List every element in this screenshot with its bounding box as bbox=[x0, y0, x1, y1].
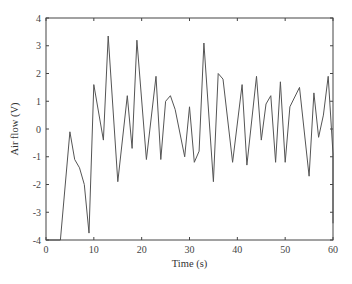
y-axis-label: Air flow (V) bbox=[9, 102, 21, 156]
x-tick-label: 40 bbox=[232, 244, 242, 255]
line-chart: 0102030405060-4-3-2-101234 Time (s) Air … bbox=[0, 0, 352, 284]
y-tick-label: -4 bbox=[33, 235, 41, 246]
y-tick-label: 4 bbox=[36, 13, 41, 24]
axis-ticks bbox=[46, 18, 333, 240]
x-tick-label: 60 bbox=[328, 244, 338, 255]
x-tick-label: 30 bbox=[185, 244, 195, 255]
figure-caption bbox=[0, 270, 352, 284]
y-tick-label: 0 bbox=[36, 124, 41, 135]
tick-labels: 0102030405060-4-3-2-101234 bbox=[33, 13, 338, 256]
x-tick-label: 20 bbox=[137, 244, 147, 255]
plot-frame bbox=[46, 18, 333, 240]
x-tick-label: 10 bbox=[89, 244, 99, 255]
y-tick-label: -3 bbox=[33, 207, 41, 218]
y-tick-label: 1 bbox=[36, 96, 41, 107]
air-flow-line bbox=[46, 36, 333, 240]
x-axis-label: Time (s) bbox=[172, 258, 208, 270]
y-tick-label: 3 bbox=[36, 40, 41, 51]
x-tick-label: 0 bbox=[44, 244, 49, 255]
x-tick-label: 50 bbox=[280, 244, 290, 255]
y-tick-label: -2 bbox=[33, 179, 41, 190]
y-tick-label: -1 bbox=[33, 151, 41, 162]
y-tick-label: 2 bbox=[36, 68, 41, 79]
